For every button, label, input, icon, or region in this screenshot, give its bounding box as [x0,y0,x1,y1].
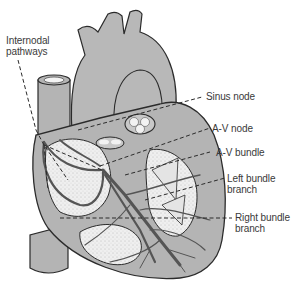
tricuspid-valve [96,137,124,149]
label-av-bundle: A-V bundle [216,147,264,158]
heart-conduction-diagram: Internodal pathways Sinus node A-V node … [0,0,299,296]
superior-vena-cava [38,75,70,135]
label-right-bundle-branch: Right bundle branch [235,212,290,234]
label-left-bundle-branch: Left bundle branch [227,173,275,195]
leader-internodal [18,60,36,130]
label-internodal-pathways: Internodal pathways [6,35,49,57]
pulmonary-valve [125,114,155,134]
label-sinus-node: Sinus node [206,91,255,102]
label-av-node: A-V node [212,123,253,134]
